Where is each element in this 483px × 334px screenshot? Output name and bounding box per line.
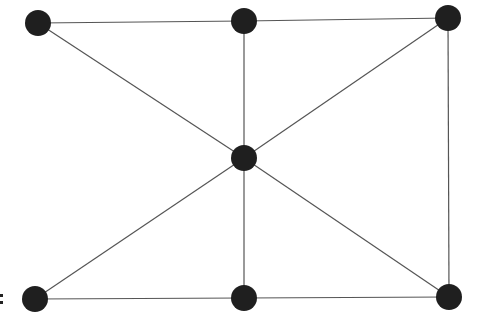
node-top-middle [231,8,257,34]
edge-top-right-bottom-right [448,18,449,297]
node-bottom-middle [231,285,257,311]
node-top-left [25,10,51,36]
edge-top-left-top-middle [38,21,244,23]
edge-top-right-center [244,18,448,158]
edge-top-left-center [38,23,244,158]
colon-mark [0,292,4,306]
edge-bottom-left-bottom-middle [35,298,244,299]
node-top-right [435,5,461,31]
node-bottom-right [436,284,462,310]
node-bottom-left [22,286,48,312]
node-center [231,145,257,171]
edge-center-bottom-left [35,158,244,299]
nodes [22,5,462,312]
edge-center-bottom-right [244,158,449,297]
edge-bottom-middle-bottom-right [244,297,449,298]
edge-top-middle-top-right [244,18,448,21]
graph-diagram [0,0,483,334]
